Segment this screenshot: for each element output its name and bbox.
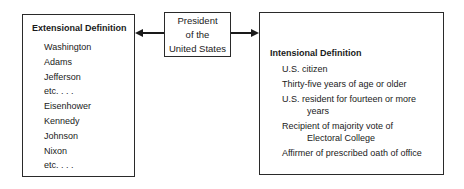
extensional-title: Extensional Definition [32, 23, 127, 33]
list-item: etc. . . . [44, 84, 91, 99]
extensional-list: Washington Adams Jefferson etc. . . . Ei… [44, 40, 91, 173]
intensional-list: U.S. citizen Thirty-five years of age or… [282, 63, 422, 162]
item-text: U.S. resident for fourteen or more [282, 94, 416, 104]
list-item: U.S. citizen [282, 63, 422, 75]
list-item: Eisenhower [44, 99, 91, 114]
list-item: Adams [44, 55, 91, 70]
arrow-left-head-icon [135, 29, 143, 37]
list-item: Washington [44, 40, 91, 55]
item-text: U.S. citizen [282, 64, 328, 74]
list-item: Thirty-five years of age or older [282, 78, 422, 90]
arrow-left-line [141, 32, 164, 34]
list-item: etc. . . . [44, 158, 91, 173]
list-item: Kennedy [44, 114, 91, 129]
list-item: U.S. resident for fourteen or more years [282, 93, 422, 117]
list-item: Recipient of majority vote of Electoral … [282, 120, 422, 144]
item-text-continued: Electoral College [282, 132, 422, 144]
item-text: Affirmer of prescribed oath of office [282, 148, 422, 158]
item-text: Recipient of majority vote of [282, 121, 393, 131]
extensional-definition-box: Extensional Definition Washington Adams … [22, 14, 135, 177]
center-line: of the [165, 28, 230, 42]
list-item: Johnson [44, 129, 91, 144]
list-item: Affirmer of prescribed oath of office [282, 147, 422, 159]
center-line: President [165, 14, 230, 28]
center-line: United States [165, 42, 230, 56]
arrow-right-line [231, 32, 252, 34]
intensional-title: Intensional Definition [270, 48, 362, 58]
arrow-right-head-icon [251, 29, 259, 37]
item-text: Thirty-five years of age or older [282, 79, 407, 89]
intensional-definition-box: Intensional Definition U.S. citizen Thir… [259, 12, 444, 175]
list-item: Nixon [44, 144, 91, 159]
president-box: President of the United States [164, 12, 231, 57]
item-text-continued: years [282, 105, 422, 117]
list-item: Jefferson [44, 70, 91, 85]
